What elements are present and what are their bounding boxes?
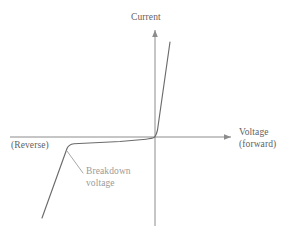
voltage-axis-label: Voltage (forward): [239, 127, 276, 150]
breakdown-voltage-line1: Breakdown: [86, 165, 131, 177]
right-arrow-icon: [224, 134, 231, 140]
diode-iv-curve: [42, 42, 170, 218]
breakdown-voltage-annotation: Breakdown voltage: [86, 165, 131, 189]
breakdown-leader-line: [67, 151, 83, 173]
current-axis-label: Current: [131, 12, 161, 24]
iv-curve-diagram: [0, 0, 299, 237]
voltage-axis-label-line2: (forward): [239, 139, 276, 151]
voltage-axis-label-line1: Voltage: [239, 127, 276, 139]
iv-characteristic-figure: Current Voltage (forward) (Reverse) Brea…: [0, 0, 299, 237]
up-arrow-icon: [152, 30, 158, 37]
breakdown-voltage-line2: voltage: [86, 177, 131, 189]
reverse-region-label: (Reverse): [11, 140, 49, 152]
